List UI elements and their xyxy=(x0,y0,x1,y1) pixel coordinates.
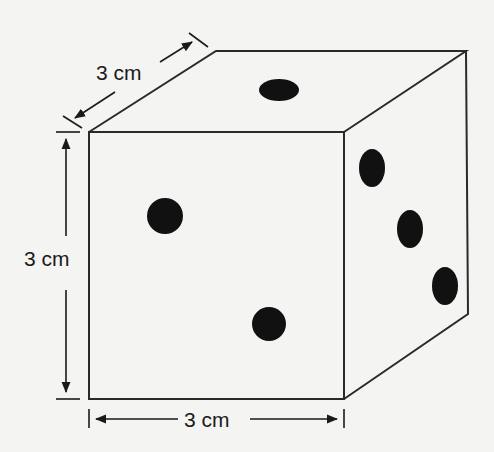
front-face xyxy=(89,132,344,399)
width-label: 3 cm xyxy=(184,408,230,431)
pips xyxy=(147,79,458,341)
height-label: 3 cm xyxy=(24,247,70,270)
side-pip-1 xyxy=(359,149,385,187)
depth-tick-lower xyxy=(63,116,82,128)
depth-label: 3 cm xyxy=(96,61,142,84)
side-pip-2 xyxy=(397,210,423,248)
top-pip xyxy=(259,79,299,101)
side-pip-3 xyxy=(432,267,458,305)
depth-arrow-lower xyxy=(75,92,115,118)
depth-arrow-upper xyxy=(160,42,192,62)
die-diagram: 3 cm 3 cm 3 cm xyxy=(0,0,494,452)
depth-tick-upper xyxy=(189,33,208,47)
front-pip-1 xyxy=(147,198,183,234)
front-pip-2 xyxy=(252,307,286,341)
